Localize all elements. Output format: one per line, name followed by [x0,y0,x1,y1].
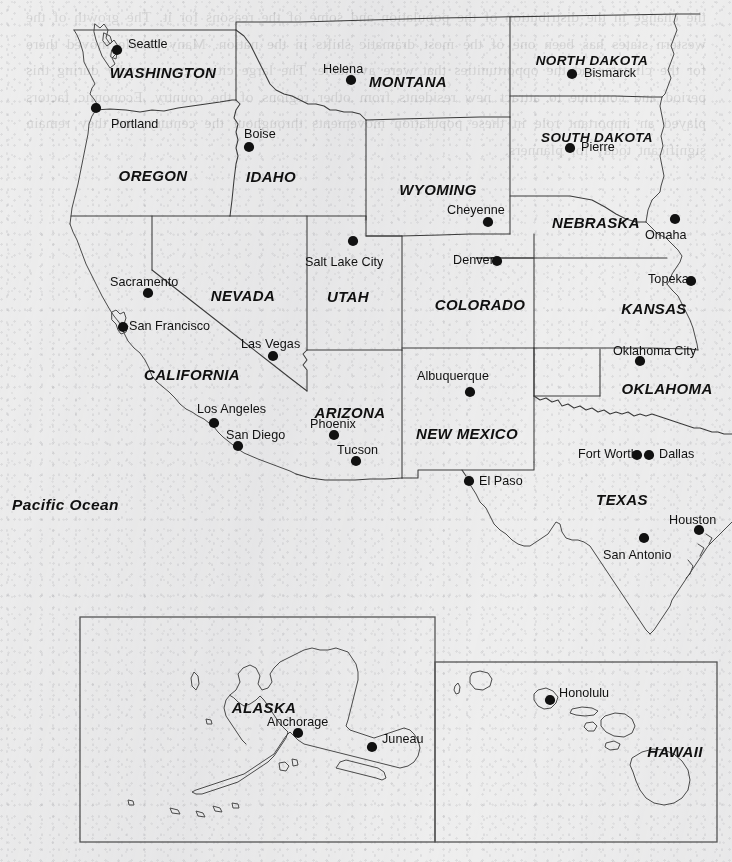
border-nv-ca [152,270,307,391]
city-dot-oklahoma-city [635,356,645,366]
city-dot-cheyenne [483,217,493,227]
hawaii-big-island [630,749,690,805]
border-ks-ok [534,348,698,350]
border-ks-east [667,284,698,350]
border-ne-east [646,222,682,284]
border-nm-tx-east [462,462,534,470]
coast-tx-gulf [650,522,732,634]
city-dot-los-angeles [209,418,219,428]
city-dot-san-antonio [639,533,649,543]
alaska-island-mid [206,719,212,724]
coast-california-south [121,325,296,474]
city-dot-layer [91,45,704,752]
city-dot-albuquerque [465,387,475,397]
city-dot-salt-lake-city [348,236,358,246]
alaska-kodiak-island [279,759,298,771]
border-nv-az [303,350,307,391]
city-dot-tucson [351,456,361,466]
border-tx-ok-red-river [534,396,732,434]
coast-washington-oregon [70,30,97,224]
city-dot-portland [91,103,101,113]
border-nd-sd [510,96,662,97]
alaska-west-coast-detail [224,695,246,744]
alaska-mainland-outline [192,648,420,794]
border-canada-north [74,14,700,30]
city-dot-bismarck [567,69,577,79]
border-wa-or [95,100,236,112]
hawaii-maui [601,713,635,737]
city-dot-sacramento [143,288,153,298]
city-dot-omaha [670,214,680,224]
city-dot-denver [492,256,502,266]
city-dot-san-francisco [118,322,128,332]
alaska-inset-frame [80,617,435,842]
border-ut-wy-notch [366,216,402,236]
border-sd-east [646,97,664,222]
city-dot-seattle [112,45,122,55]
city-dot-fort-worth [632,450,642,460]
border-az-south [296,474,402,480]
hawaii-kahoolawe [605,741,620,750]
border-nm-south [402,470,466,478]
hawaii-kauai [470,671,492,690]
hawaii-niihau [454,683,460,694]
city-dot-el-paso [464,476,474,486]
border-tx-rio-grande [466,478,650,634]
city-dot-phoenix [329,430,339,440]
city-dot-honolulu [545,695,555,705]
hawaii-lanai [584,722,597,731]
city-dot-houston [694,525,704,535]
city-dot-boise [244,142,254,152]
border-id-mt [236,30,366,120]
border-nd-east [662,14,677,97]
city-dot-juneau [367,742,377,752]
city-dot-las-vegas [268,351,278,361]
alaska-small-island-west [191,672,199,690]
city-dot-dallas [644,450,654,460]
city-dot-helena [346,75,356,85]
border-sd-ne [510,196,646,222]
city-dot-anchorage [293,728,303,738]
city-dot-san-diego [233,441,243,451]
coast-california-north [70,224,121,325]
hawaii-molokai [570,707,598,716]
alaska-aleutian-islands [128,800,239,817]
border-or-id [230,100,240,216]
city-dot-topeka [686,276,696,286]
city-dot-pierre [565,143,575,153]
map-figure: the change in the distribution of the po… [0,0,732,862]
coast-tx-barrier-islands [686,534,712,578]
border-mt-wy [366,117,510,120]
map-vector-layer [0,0,732,862]
